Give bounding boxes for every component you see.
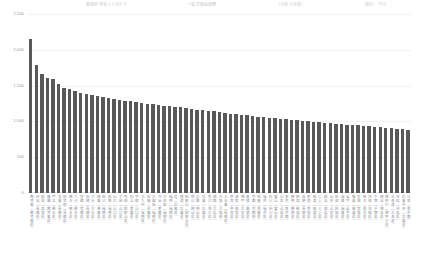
x-axis-label: 三重（三重県） [317, 195, 321, 223]
bar[interactable] [406, 130, 409, 193]
bar[interactable] [273, 118, 276, 193]
chart-screenshot: 都道府県別 1人当たり一般診療医療費（令和元年度）単位：千円 2,5002,00… [0, 0, 423, 279]
x-axis-label: 呉（広島県） [173, 195, 177, 219]
bar[interactable] [151, 104, 154, 193]
bar[interactable] [340, 124, 343, 193]
bar[interactable] [201, 110, 204, 193]
x-axis-label: 飯塚（福岡県） [107, 195, 111, 223]
bar[interactable] [279, 119, 282, 193]
bar[interactable] [73, 91, 76, 193]
bar[interactable] [51, 79, 54, 193]
x-axis-labels: 鹿児島（鹿児島県）対馬（長崎県）高知（高知県）薩摩（鹿児島県）芦北（熊本県）五島… [28, 195, 411, 279]
bar[interactable] [140, 103, 143, 193]
bar[interactable] [251, 116, 254, 193]
x-axis-label: 北海道（北海道） [390, 195, 394, 227]
bar[interactable] [207, 111, 210, 193]
bar[interactable] [46, 78, 49, 193]
bar[interactable] [301, 121, 304, 193]
x-axis-label: 山形（山形県） [329, 195, 333, 223]
y-axis: 2,5002,0001,5001,0005000 [0, 0, 28, 193]
bar[interactable] [317, 122, 320, 193]
bar[interactable] [373, 127, 376, 193]
bar[interactable] [262, 117, 265, 193]
chart-title: 都道府県別 1人当たり一般診療医療費（令和元年度）単位：千円 [86, 0, 386, 7]
bar[interactable] [173, 107, 176, 193]
x-axis-label: 愛知（愛知県） [306, 195, 310, 223]
bar[interactable] [306, 121, 309, 193]
y-axis-tick: 1,500 [13, 83, 24, 87]
bar[interactable] [268, 118, 271, 193]
bar[interactable] [390, 128, 393, 193]
bar[interactable] [256, 117, 259, 193]
x-axis-label: 長野（長野県） [301, 195, 305, 223]
bar[interactable] [112, 99, 115, 193]
bar[interactable] [295, 120, 298, 193]
bar[interactable] [195, 110, 198, 193]
bar[interactable] [118, 100, 121, 193]
bar[interactable] [323, 123, 326, 193]
bar[interactable] [223, 113, 226, 193]
bar[interactable] [284, 119, 287, 193]
x-axis-label: 香川（香川県） [206, 195, 210, 223]
bar[interactable] [35, 65, 38, 193]
x-axis-label: 五島（長崎県） [57, 195, 61, 223]
bar[interactable] [212, 111, 215, 193]
bar[interactable] [356, 125, 359, 193]
bar[interactable] [79, 93, 82, 193]
bar[interactable] [351, 125, 354, 193]
bar[interactable] [57, 84, 60, 193]
x-axis-label: 石川（石川県） [268, 195, 272, 223]
bar[interactable] [290, 120, 293, 193]
bar[interactable] [107, 98, 110, 193]
bar[interactable] [245, 115, 248, 193]
bar[interactable] [218, 112, 221, 193]
bar[interactable] [190, 109, 193, 193]
bar[interactable] [401, 129, 404, 193]
bar[interactable] [367, 126, 370, 193]
bar[interactable] [68, 89, 71, 193]
x-axis-label: 岡山（岡山県） [190, 195, 194, 223]
bar[interactable] [395, 129, 398, 193]
bar[interactable] [96, 96, 99, 193]
bar[interactable] [134, 102, 137, 193]
y-axis-tick: 2,500 [13, 12, 24, 16]
x-axis-label: 長崎（長崎県） [84, 195, 88, 223]
bar[interactable] [129, 101, 132, 193]
bar[interactable] [312, 122, 315, 193]
x-axis-label: 奈良（奈良県） [229, 195, 233, 223]
bar[interactable] [240, 115, 243, 193]
bar[interactable] [101, 97, 104, 193]
bar[interactable] [234, 114, 237, 193]
plot-area [28, 14, 411, 193]
bar[interactable] [384, 128, 387, 194]
bar[interactable] [62, 88, 65, 193]
x-axis-label: 佐賀（佐賀県） [145, 195, 149, 223]
bar[interactable] [345, 125, 348, 193]
bar[interactable] [362, 126, 365, 193]
bar[interactable] [184, 108, 187, 193]
x-axis-label: 大牟田（福岡県） [162, 195, 166, 227]
bar[interactable] [40, 74, 43, 193]
x-axis-label: 姫路（兵庫県） [212, 195, 216, 223]
bar[interactable] [123, 101, 126, 193]
bar[interactable] [168, 106, 171, 193]
bar[interactable] [329, 123, 332, 193]
x-axis-label: 有田（和歌山県） [123, 195, 127, 227]
bar[interactable] [229, 114, 232, 193]
x-axis-label: 芦北（熊本県） [51, 195, 55, 223]
x-axis-label: 熊本（熊本県） [68, 195, 72, 223]
bar-series [28, 14, 411, 193]
bar-slot[interactable] [405, 14, 411, 193]
bar[interactable] [379, 127, 382, 193]
bar[interactable] [85, 94, 88, 193]
bar[interactable] [179, 107, 182, 193]
bar[interactable] [157, 105, 160, 193]
bar[interactable] [29, 39, 32, 193]
bar[interactable] [162, 106, 165, 193]
x-axis-label: 和歌山（和歌山県） [184, 195, 188, 231]
bar[interactable] [90, 95, 93, 193]
x-axis-label: 久留米（福岡県） [151, 195, 155, 227]
bar[interactable] [146, 104, 149, 194]
y-axis-tick: 0 [22, 191, 24, 195]
bar[interactable] [334, 124, 337, 193]
